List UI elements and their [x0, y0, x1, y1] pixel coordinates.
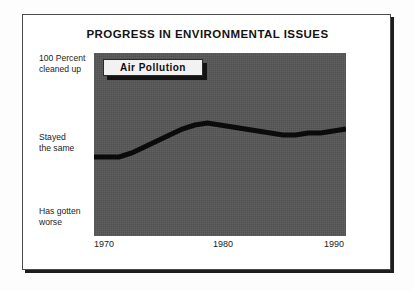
- y-axis-label-middle-line1: Stayed: [39, 132, 95, 143]
- plot-area: [94, 53, 346, 236]
- frame-shadow-right: [391, 17, 394, 272]
- y-axis-label-top-line2: cleaned up: [39, 64, 95, 75]
- series-callout-box: Air Pollution: [103, 59, 203, 76]
- series-line-air-pollution: [94, 53, 346, 236]
- y-axis-label-bottom: Has gotten worse: [39, 206, 95, 228]
- y-axis-label-top-line1: 100 Percent: [39, 53, 95, 64]
- frame-shadow-bottom: [25, 270, 394, 273]
- series-callout: Air Pollution: [103, 59, 203, 76]
- y-axis-label-top: 100 Percent cleaned up: [39, 53, 95, 75]
- chart-title: PROGRESS IN ENVIRONMENTAL ISSUES: [23, 28, 392, 40]
- y-axis-label-middle-line2: the same: [39, 143, 95, 154]
- y-axis-label-bottom-line2: worse: [39, 217, 95, 228]
- y-axis-label-bottom-line1: Has gotten: [39, 206, 95, 217]
- chart-figure-root: PROGRESS IN ENVIRONMENTAL ISSUES 100 Per…: [0, 0, 414, 291]
- x-axis-tick-1970: 1970: [94, 239, 114, 249]
- series-callout-label: Air Pollution: [120, 62, 186, 73]
- x-axis-tick-1980: 1980: [213, 239, 233, 249]
- y-axis-label-middle: Stayed the same: [39, 132, 95, 154]
- x-axis-tick-1990: 1990: [324, 239, 344, 249]
- figure-frame: PROGRESS IN ENVIRONMENTAL ISSUES 100 Per…: [22, 14, 391, 270]
